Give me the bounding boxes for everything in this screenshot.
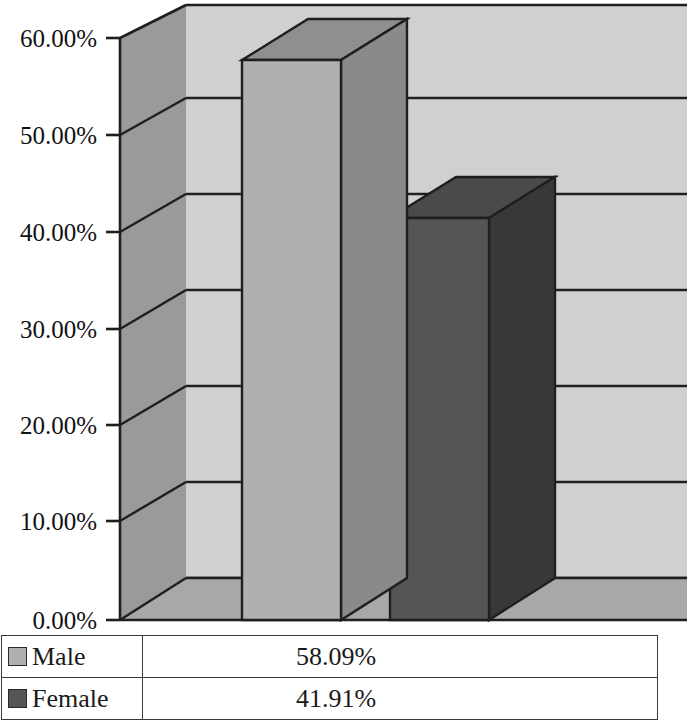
bar-male	[242, 19, 407, 620]
legend-series-name-male: Male	[32, 644, 85, 670]
chart-plot-area: 60.00% 50.00% 40.00% 30.00% 20.00% 10.00…	[0, 0, 687, 640]
bar-female	[390, 177, 555, 620]
y-tick-label-30: 30.00%	[20, 316, 97, 343]
three-d-column-chart: 60.00% 50.00% 40.00% 30.00% 20.00% 10.00…	[0, 0, 687, 722]
bar-male-front	[242, 60, 341, 620]
legend-value-cell-male: 58.09%	[143, 636, 658, 678]
chart-left-wall	[120, 5, 186, 620]
legend-swatch-female	[8, 689, 27, 708]
legend-series-name-female: Female	[32, 686, 109, 712]
y-tick-label-50: 50.00%	[20, 122, 97, 149]
y-tick-label-20: 20.00%	[20, 412, 97, 439]
chart-y-tick-marks	[106, 38, 120, 620]
legend-label-cell-male: Male	[2, 636, 143, 678]
legend-row-female: Female 41.91%	[2, 678, 658, 720]
legend-label-cell-female: Female	[2, 678, 143, 720]
legend-swatch-male	[8, 647, 27, 666]
bar-male-side	[341, 19, 407, 620]
y-tick-label-0: 0.00%	[32, 607, 97, 634]
legend-data-table: Male 58.09% Female 41.91%	[1, 635, 658, 720]
bar-female-side	[489, 177, 555, 620]
legend-row-male: Male 58.09%	[2, 636, 658, 678]
y-tick-label-40: 40.00%	[20, 219, 97, 246]
legend-value-cell-female: 41.91%	[143, 678, 658, 720]
legend-series-value-female: 41.91%	[296, 686, 376, 712]
y-tick-label-10: 10.00%	[20, 508, 97, 535]
legend-series-value-male: 58.09%	[296, 644, 376, 670]
y-tick-label-60: 60.00%	[20, 25, 97, 52]
